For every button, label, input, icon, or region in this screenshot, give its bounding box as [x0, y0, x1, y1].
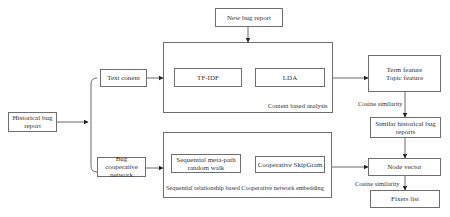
cooperative-skipgram-node: Cooperative SkipGram	[255, 156, 325, 173]
tf-idf-label: TF-IDF	[197, 74, 219, 82]
node-vector-label: Node vector	[387, 163, 421, 171]
fixers-list-label: Fixers list	[391, 195, 419, 203]
sequential-meta-path-node: Sequential meta-path random walk	[171, 154, 241, 173]
cosine-similarity-label-2: Cosine similarity	[355, 180, 400, 188]
historical-bug-report-node: Historical bug report	[8, 112, 57, 132]
sequential-meta-path-label: Sequential meta-path random walk	[176, 156, 236, 172]
node-vector-node: Node vector	[368, 158, 441, 176]
text-content-node: Text conent	[100, 69, 147, 87]
text-content-label: Text conent	[107, 74, 140, 82]
topic-feature-label: Topic feature	[386, 74, 423, 82]
fixers-list-node: Fixers list	[370, 190, 440, 208]
new-bug-report-node: New bug report	[215, 8, 283, 27]
sequential-embedding-label: Sequential relationship based Cooperativ…	[166, 184, 324, 192]
term-topic-feature-node: Term feature Topic feature	[368, 55, 441, 92]
term-feature-label: Term feature	[387, 66, 423, 74]
bug-cooperative-network-label: Bug cooperative network	[100, 155, 143, 179]
cosine-similarity-label-1: Cosine similarity	[358, 100, 403, 108]
historical-bug-report-label: Historical bug report	[11, 114, 54, 130]
bug-cooperative-network-node: Bug cooperative network	[97, 157, 146, 177]
content-based-analysis-label: Content based analysis	[268, 102, 328, 110]
similar-historical-bug-reports-node: Similar historical bug reports	[370, 117, 441, 138]
lda-node: LDA	[255, 68, 325, 87]
similar-historical-bug-reports-label: Similar historical bug reports	[375, 120, 436, 136]
lda-label: LDA	[283, 74, 297, 82]
cooperative-skipgram-label: Cooperative SkipGram	[258, 161, 323, 169]
new-bug-report-label: New bug report	[227, 14, 271, 22]
tf-idf-node: TF-IDF	[174, 68, 242, 87]
